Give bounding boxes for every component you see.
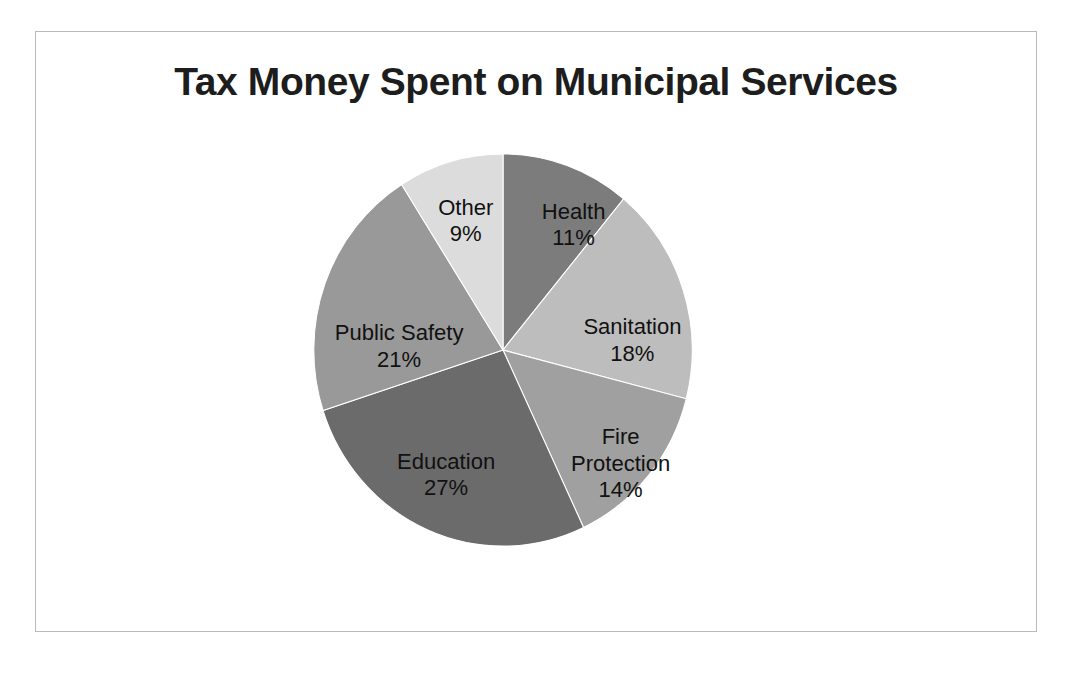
pie-chart: Health11%Sanitation18%FireProtection14%E… — [36, 32, 1038, 633]
page-root: Tax Money Spent on Municipal Services He… — [0, 0, 1068, 676]
pie-chart-svg: Health11%Sanitation18%FireProtection14%E… — [303, 146, 703, 554]
figure-frame: Tax Money Spent on Municipal Services He… — [35, 31, 1037, 632]
